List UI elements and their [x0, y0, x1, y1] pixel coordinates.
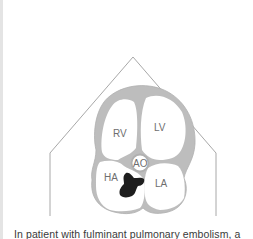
label-ha: HA	[104, 172, 118, 183]
figure-caption: In patient with fulminant pulmonary embo…	[14, 228, 253, 239]
heart-diagram: RV LV AO HA LA	[0, 0, 253, 222]
label-la: LA	[155, 178, 168, 189]
label-lv: LV	[154, 122, 166, 133]
label-rv: RV	[113, 128, 127, 139]
label-ao: AO	[133, 158, 148, 169]
